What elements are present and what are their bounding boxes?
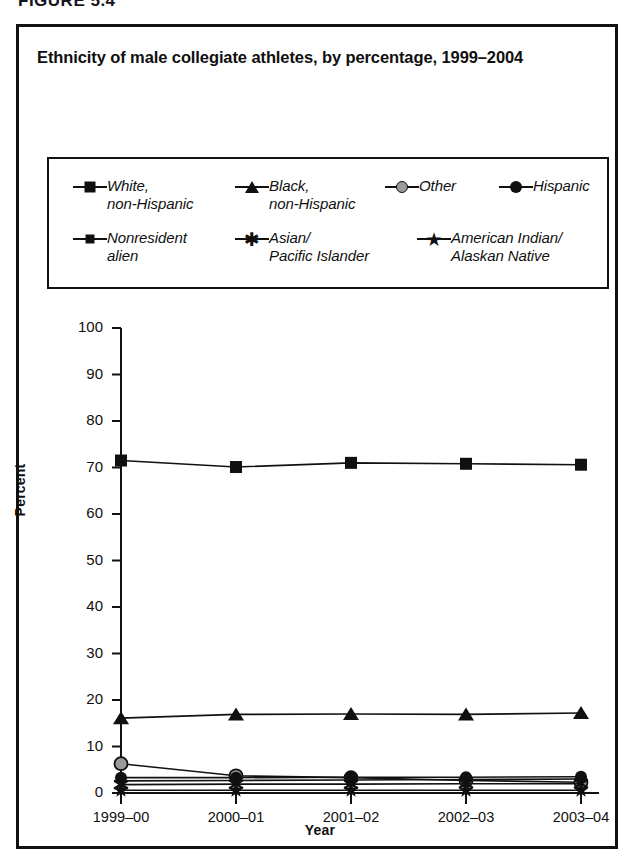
figure-page: FIGURE 5.4 Ethnicity of male collegiate … bbox=[0, 0, 632, 857]
y-axis-label: Percent bbox=[12, 464, 28, 517]
y-axis-tick-label: 70 bbox=[59, 458, 103, 475]
x-axis-tick-label: 2002–03 bbox=[416, 809, 516, 825]
y-axis-tick-label: 10 bbox=[59, 737, 103, 754]
plot-area: Percent Year 01020304050607080901001999–… bbox=[19, 27, 621, 852]
y-axis-tick-label: 30 bbox=[59, 644, 103, 661]
series-black-non-hispanic bbox=[113, 706, 589, 724]
y-axis-tick-label: 20 bbox=[59, 690, 103, 707]
figure-caption: FIGURE 5.4 bbox=[18, 0, 116, 11]
y-axis-tick-label: 50 bbox=[59, 551, 103, 568]
y-axis-tick-label: 0 bbox=[59, 783, 103, 800]
y-axis-tick-label: 100 bbox=[59, 318, 103, 335]
y-axis-tick-label: 80 bbox=[59, 411, 103, 428]
figure-box: Ethnicity of male collegiate athletes, b… bbox=[16, 24, 618, 849]
y-axis-tick-label: 60 bbox=[59, 504, 103, 521]
series-white-non-hispanic bbox=[115, 455, 587, 474]
x-axis-tick-label: 2003–04 bbox=[531, 809, 631, 825]
y-axis-tick-label: 90 bbox=[59, 365, 103, 382]
x-axis-tick-label: 1999–00 bbox=[71, 809, 171, 825]
chart-svg bbox=[19, 27, 621, 852]
x-axis-tick-label: 2000–01 bbox=[186, 809, 286, 825]
y-axis-tick-label: 40 bbox=[59, 597, 103, 614]
x-axis-tick-label: 2001–02 bbox=[301, 809, 401, 825]
